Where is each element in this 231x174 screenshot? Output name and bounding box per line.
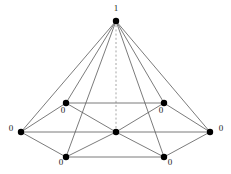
- edge-right-lower-right: [164, 132, 210, 157]
- left-node[interactable]: [18, 129, 24, 135]
- lower-right-node[interactable]: [161, 154, 167, 160]
- graph-figure: 1000000: [0, 0, 231, 174]
- lower-right-node-label: 0: [168, 158, 173, 167]
- edge-apex-lower-right: [116, 21, 164, 157]
- apex-node-label: 1: [114, 4, 119, 13]
- edge-apex-right: [116, 21, 210, 132]
- edge-upper-left-center: [66, 103, 116, 132]
- upper-right-node-label: 0: [159, 106, 164, 115]
- graph-canvas: [0, 0, 231, 174]
- left-node-label: 0: [9, 124, 14, 133]
- right-node[interactable]: [207, 129, 213, 135]
- center-node[interactable]: [113, 129, 119, 135]
- apex-node[interactable]: [113, 18, 119, 24]
- edge-left-lower-left: [21, 132, 66, 157]
- right-node-label: 0: [219, 124, 224, 133]
- upper-left-node-label: 0: [61, 106, 66, 115]
- edge-apex-left: [21, 21, 116, 132]
- edge-apex-upper-right: [116, 21, 164, 103]
- edge-layer: [21, 21, 210, 157]
- edge-upper-right-center: [116, 103, 164, 132]
- edge-apex-lower-left: [66, 21, 116, 157]
- edge-right-upper-right: [164, 103, 210, 132]
- lower-left-node[interactable]: [63, 154, 69, 160]
- edge-apex-upper-left: [66, 21, 116, 103]
- edge-left-upper-left: [21, 103, 66, 132]
- lower-left-node-label: 0: [59, 158, 64, 167]
